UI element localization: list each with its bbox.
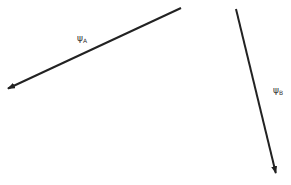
- vector-a-arrow: [8, 8, 181, 89]
- vector-a-label: ψA: [77, 34, 87, 44]
- vector-b-label: ψB: [273, 86, 283, 96]
- vector-b-arrow: [236, 9, 276, 173]
- vector-diagram: [0, 0, 291, 185]
